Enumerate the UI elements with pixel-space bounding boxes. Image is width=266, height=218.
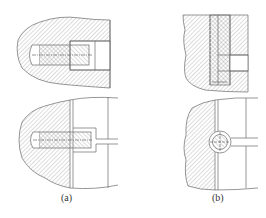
panel-a-bottom-view <box>19 97 118 189</box>
panel-a-top-view <box>17 17 110 88</box>
panel-a-label: (a) <box>61 192 72 203</box>
panel-b-top-view <box>183 15 248 92</box>
panel-b-bottom-view <box>184 98 258 190</box>
panel-b-label: (b) <box>212 192 224 203</box>
pin <box>210 15 230 85</box>
technical-figure <box>0 0 266 218</box>
